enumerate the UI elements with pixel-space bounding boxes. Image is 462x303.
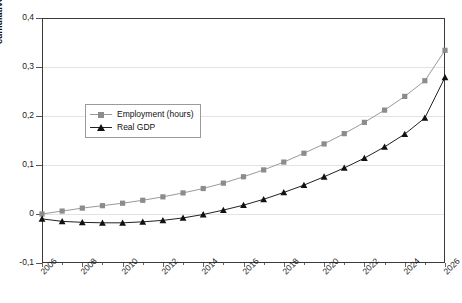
chart-legend: Employment (hours) Real GDP — [85, 104, 201, 138]
y-tick-label: 0,4 — [0, 13, 34, 22]
legend-label-employment: Employment (hours) — [117, 110, 194, 119]
y-tick-label: 0 — [0, 209, 34, 218]
y-tick-label: 0,3 — [0, 62, 34, 71]
y-tick-label: -0,1 — [0, 258, 34, 267]
gridline — [43, 214, 444, 215]
x-tick-mark — [183, 263, 184, 265]
x-tick-mark — [264, 263, 265, 265]
y-tick-label: 0,2 — [0, 111, 34, 120]
x-tick-mark — [385, 263, 386, 265]
x-tick-mark — [304, 263, 305, 265]
x-tick-mark — [425, 263, 426, 265]
legend-marker-square-icon — [90, 109, 112, 120]
x-tick-mark — [102, 263, 103, 265]
x-tick-mark — [344, 263, 345, 265]
x-tick-mark — [143, 263, 144, 265]
gridline — [43, 67, 444, 68]
legend-item-real-gdp: Real GDP — [90, 121, 194, 134]
y-tick-label: 0,1 — [0, 160, 34, 169]
y-axis-title: cumulative % deviation from base case — [0, 0, 4, 44]
x-tick-mark — [223, 263, 224, 265]
x-tick-mark — [62, 263, 63, 265]
legend-marker-triangle-icon — [90, 122, 112, 133]
legend-label-real-gdp: Real GDP — [117, 123, 155, 132]
legend-item-employment: Employment (hours) — [90, 108, 194, 121]
gridline — [43, 165, 444, 166]
plot-area — [42, 18, 445, 263]
